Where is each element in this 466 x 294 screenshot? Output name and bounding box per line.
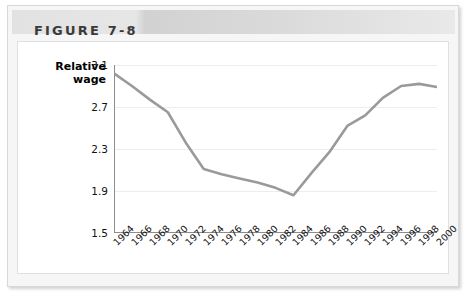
chart-card: Relative wage 1.51.92.32.73.1 1964196619… bbox=[17, 41, 449, 274]
plot-area bbox=[114, 65, 437, 233]
line-chart-svg bbox=[114, 65, 437, 233]
y-tick-label: 2.7 bbox=[74, 102, 108, 112]
gridlines-group bbox=[114, 66, 437, 192]
y-tick-label: 1.5 bbox=[74, 228, 108, 238]
y-tick-label: 2.3 bbox=[74, 144, 108, 154]
y-tick-label: 1.9 bbox=[74, 186, 108, 196]
figure-header-band: FIGURE 7-8 bbox=[12, 10, 455, 34]
y-tick-label: 3.1 bbox=[74, 60, 108, 70]
y-axis-title-line-2: wage bbox=[34, 73, 106, 86]
figure-root: FIGURE 7-8 Relative wage 1.51.92.32.73.1… bbox=[0, 0, 466, 294]
figure-number-label: FIGURE 7-8 bbox=[34, 23, 138, 38]
relative-wage-series-line bbox=[114, 73, 437, 195]
